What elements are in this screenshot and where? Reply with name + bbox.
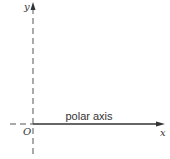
y-axis-arrowhead-icon xyxy=(31,2,36,10)
polar-axis-diagram: y O x polar axis xyxy=(0,0,170,159)
y-axis-label: y xyxy=(23,1,30,12)
origin-label: O xyxy=(23,126,31,137)
polar-axis-label: polar axis xyxy=(65,110,113,122)
x-axis-label: x xyxy=(160,127,166,138)
polar-axis-arrowhead-icon xyxy=(156,122,165,127)
